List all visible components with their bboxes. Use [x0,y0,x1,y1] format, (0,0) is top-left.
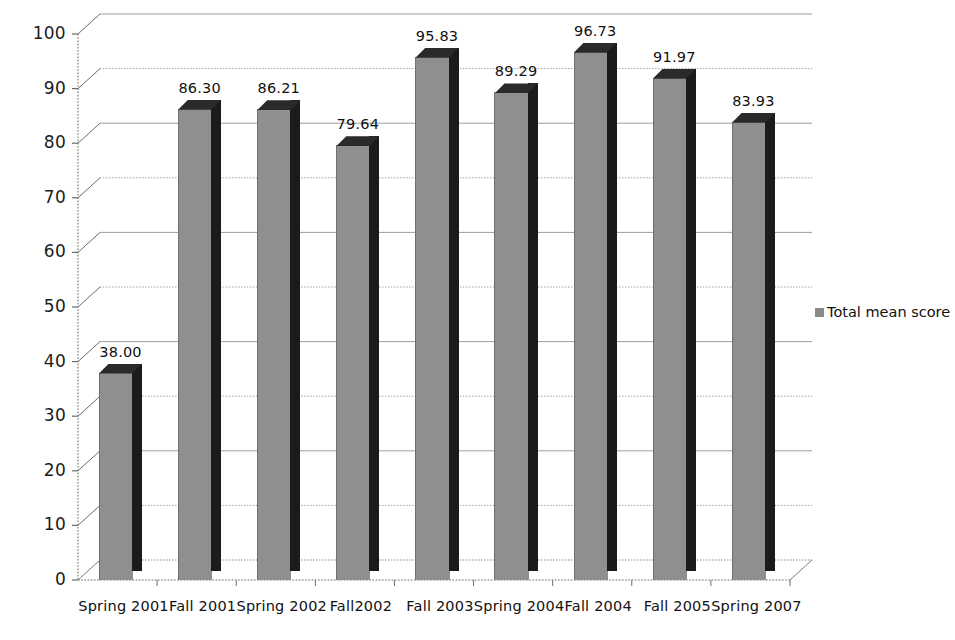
bar-value-label: 38.00 [99,345,142,360]
x-axis-category-label: Spring 2002 [237,599,328,614]
y-axis-tick-label: 60 [10,243,66,260]
y-axis-tick-label: 50 [10,298,66,315]
bar-column [415,48,448,580]
bar-column [732,113,765,580]
x-axis-category-label: Fall 2004 [565,599,632,614]
bar-column [99,364,132,580]
y-axis-tick-label: 40 [10,353,66,370]
legend-swatch-icon [815,308,824,317]
bar-column [178,100,211,580]
legend-label: Total mean score [827,305,950,320]
y-axis-tick-label: 10 [10,516,66,533]
x-axis-category-label: Spring 2001 [78,599,169,614]
bar-value-label: 83.93 [732,94,775,109]
bar-value-label: 89.29 [495,64,538,79]
x-axis-category-label: Spring 2004 [474,599,565,614]
y-axis-tick-label: 90 [10,80,66,97]
x-axis-category-label: Fall2002 [330,599,392,614]
bar-front-face [574,52,608,580]
bar-value-label: 86.21 [258,81,301,96]
bar-front-face [494,92,528,580]
bar-side-face [211,100,221,571]
bar-side-face [607,43,617,571]
bar-value-label: 86.30 [178,81,221,96]
bar-value-label: 79.64 [337,117,380,132]
bar-front-face [732,122,766,580]
bar-column [494,83,527,580]
x-axis-category-label: Fall 2005 [644,599,711,614]
y-axis-tick-label: 100 [10,25,66,42]
bar-front-face [178,109,212,580]
y-axis-tick-label: 80 [10,134,66,151]
bar-column [336,136,369,580]
bar-front-face [336,145,370,580]
bar-side-face [765,113,775,571]
y-axis-tick-label: 20 [10,462,66,479]
bar-value-label: 95.83 [416,29,459,44]
y-axis-tick-label: 70 [10,189,66,206]
bar-side-face [290,100,300,571]
bar-side-face [369,136,379,571]
bar-side-face [528,83,538,571]
y-axis-tick-label: 0 [10,571,66,588]
x-axis-category-label: Fall 2003 [406,599,473,614]
bar-front-face [257,109,291,580]
x-axis-category-label: Spring 2007 [711,599,802,614]
bar-side-face [132,364,142,571]
bar-front-face [415,57,449,580]
bar-value-label: 91.97 [653,50,696,65]
chart-legend: Total mean score [815,305,950,320]
bar-side-face [686,69,696,571]
x-axis-category-label: Fall 2001 [169,599,236,614]
bar-front-face [99,373,133,580]
bar-side-face [449,48,459,571]
bar-value-label: 96.73 [574,24,617,39]
bar-column [574,43,607,580]
chart-axes-and-gridlines [0,0,955,640]
y-axis-tick-label: 30 [10,407,66,424]
bar-column [257,100,290,580]
bar-column [653,69,686,580]
bar-front-face [653,78,687,580]
bar-chart-3d: 0102030405060708090100 38.0086.3086.2179… [0,0,955,640]
